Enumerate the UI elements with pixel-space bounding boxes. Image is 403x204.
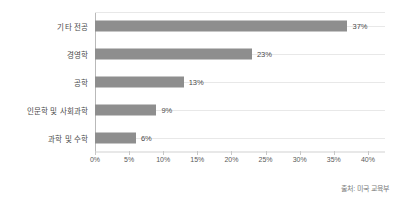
x-axis-tick-label: 5%: [124, 156, 134, 163]
category-label: 인문학 및 사회과학: [27, 105, 88, 116]
plot-area: 기타 전공37%경영학23%공학13%인문학 및 사회과학9%과학 및 수학6%: [95, 12, 385, 152]
bar-value-label: 23%: [257, 50, 272, 59]
bar-value-label: 9%: [161, 106, 172, 115]
x-axis-tick: [129, 151, 130, 155]
bar-row: 경영학23%: [95, 40, 385, 68]
x-axis-tick-label: 40%: [361, 156, 375, 163]
bar: [95, 133, 136, 144]
x-axis-tick-label: 35%: [327, 156, 341, 163]
bar: [95, 105, 156, 116]
bar-value-label: 13%: [189, 78, 204, 87]
bar-row: 기타 전공37%: [95, 12, 385, 40]
source-note: 출처: 미국 교육부: [341, 183, 389, 193]
x-axis-tick: [300, 151, 301, 155]
x-axis-tick-label: 25%: [259, 156, 273, 163]
gridline: [95, 152, 385, 153]
bar-chart-figure: 기타 전공37%경영학23%공학13%인문학 및 사회과학9%과학 및 수학6%…: [0, 0, 403, 204]
bar-row: 인문학 및 사회과학9%: [95, 96, 385, 124]
x-axis-tick-label: 15%: [190, 156, 204, 163]
x-axis-tick-label: 20%: [224, 156, 238, 163]
x-axis-tick: [163, 151, 164, 155]
bar-value-label: 37%: [352, 22, 367, 31]
x-axis-tick-label: 0%: [90, 156, 100, 163]
bar: [95, 77, 184, 88]
x-axis-tick: [231, 151, 232, 155]
category-label: 기타 전공: [57, 21, 88, 32]
category-label: 과학 및 수학: [48, 133, 88, 144]
x-axis-tick: [197, 151, 198, 155]
x-axis-tick: [266, 151, 267, 155]
category-label: 공학: [74, 77, 88, 88]
x-axis-tick-label: 30%: [293, 156, 307, 163]
x-axis-tick-label: 10%: [156, 156, 170, 163]
x-axis-tick: [334, 151, 335, 155]
bar: [95, 21, 347, 32]
bar-value-label: 6%: [141, 134, 152, 143]
bar: [95, 49, 252, 60]
bar-row: 공학13%: [95, 68, 385, 96]
bar-row: 과학 및 수학6%: [95, 124, 385, 152]
category-label: 경영학: [67, 49, 88, 60]
x-axis-tick: [95, 151, 96, 155]
x-axis-tick: [368, 151, 369, 155]
